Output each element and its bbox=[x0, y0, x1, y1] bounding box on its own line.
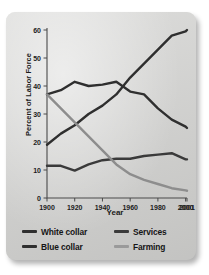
chart-legend: White collar Services Blue collar Farmin… bbox=[22, 224, 186, 254]
y-tick-label: 0 bbox=[37, 195, 41, 202]
y-tick-labels: 0102030405060 bbox=[33, 27, 41, 202]
legend-swatch-white-collar bbox=[22, 230, 37, 233]
data-series bbox=[47, 30, 187, 191]
axes bbox=[47, 28, 187, 198]
figure-root: Percent of Labor Force 0102030405060 190… bbox=[0, 0, 209, 275]
y-tick-label: 50 bbox=[33, 55, 41, 62]
legend-row: Blue collar Farming bbox=[22, 239, 186, 254]
legend-entry-white-collar: White collar bbox=[22, 227, 114, 237]
series-line-farming bbox=[47, 94, 187, 190]
chart-card: Percent of Labor Force 0102030405060 190… bbox=[6, 12, 196, 260]
legend-swatch-services bbox=[114, 230, 129, 233]
legend-entry-services: Services bbox=[114, 227, 186, 237]
y-tick-label: 30 bbox=[33, 111, 41, 118]
legend-swatch-farming bbox=[114, 245, 129, 248]
plot-area: Percent of Labor Force 0102030405060 190… bbox=[6, 12, 196, 260]
series-line-services bbox=[47, 153, 187, 170]
line-chart: 0102030405060 19001920194019601980200020… bbox=[6, 12, 196, 260]
legend-label-farming: Farming bbox=[133, 242, 165, 252]
y-tick-label: 20 bbox=[33, 139, 41, 146]
legend-label-services: Services bbox=[133, 227, 167, 237]
y-tick-label: 10 bbox=[33, 167, 41, 174]
legend-label-white-collar: White collar bbox=[41, 227, 87, 237]
y-tick-label: 60 bbox=[33, 27, 41, 34]
legend-label-blue-collar: Blue collar bbox=[41, 242, 83, 252]
legend-row: White collar Services bbox=[22, 224, 186, 239]
legend-swatch-blue-collar bbox=[22, 245, 37, 248]
series-line-white-collar bbox=[47, 30, 187, 145]
legend-entry-farming: Farming bbox=[114, 242, 186, 252]
series-line-blue-collar bbox=[47, 82, 187, 128]
x-axis-title: Year bbox=[40, 208, 190, 217]
legend-entry-blue-collar: Blue collar bbox=[22, 242, 114, 252]
y-tick-label: 40 bbox=[33, 83, 41, 90]
